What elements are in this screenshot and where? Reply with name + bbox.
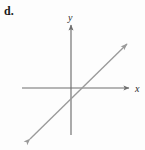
graph-line [30,44,127,139]
coordinate-plane-graph: y x [0,0,145,150]
figure-container: d. y x [0,0,145,150]
y-axis-label: y [67,12,73,23]
x-axis-label: x [134,83,140,94]
